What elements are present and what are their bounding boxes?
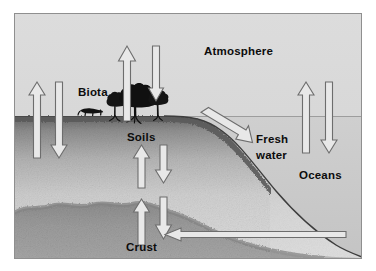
label-fresh-water-line2: water: [255, 149, 287, 161]
label-atmosphere: Atmosphere: [204, 45, 273, 57]
label-soils: Soils: [127, 131, 155, 143]
label-biota: Biota: [78, 86, 108, 98]
diagram-figure: Atmosphere Biota Soils Crust Fresh water…: [14, 13, 362, 259]
label-oceans: Oceans: [299, 169, 342, 181]
label-fresh-water-line1: Fresh: [256, 133, 288, 145]
label-crust: Crust: [126, 241, 157, 253]
diagram-canvas: Atmosphere Biota Soils Crust Fresh water…: [14, 13, 362, 259]
